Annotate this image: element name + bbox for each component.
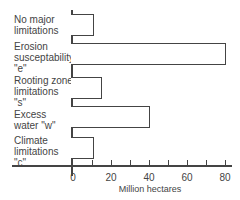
x-tick xyxy=(187,160,188,165)
category-label-climate: Climate limitations "c" xyxy=(14,135,58,168)
x-tick xyxy=(130,160,131,165)
bar-climate xyxy=(71,137,94,159)
x-tick xyxy=(168,160,169,165)
x-tick xyxy=(225,160,226,165)
x-tick xyxy=(111,160,112,165)
bar-excess-water xyxy=(71,106,150,128)
x-axis-label: Million hectares xyxy=(119,184,182,194)
x-tick-label: 20 xyxy=(105,172,116,183)
x-tick xyxy=(92,160,93,165)
x-tick-label: 80 xyxy=(219,172,230,183)
category-label-excess-water: Excess water "w" xyxy=(14,109,56,131)
bar-erosion xyxy=(71,43,226,65)
bar-rooting xyxy=(71,77,102,99)
x-tick-label: 0 xyxy=(70,172,76,183)
x-axis xyxy=(12,165,232,167)
x-tick xyxy=(149,160,150,165)
bar-no-major xyxy=(71,14,94,36)
category-label-rooting: Rooting zone limitations "s" xyxy=(14,75,73,108)
x-tick xyxy=(206,160,207,165)
x-tick-label: 60 xyxy=(181,172,192,183)
x-tick-label: 40 xyxy=(143,172,154,183)
category-label-no-major: No major limitations xyxy=(14,14,58,36)
category-label-erosion: Erosion susceptability "e" xyxy=(14,41,74,74)
